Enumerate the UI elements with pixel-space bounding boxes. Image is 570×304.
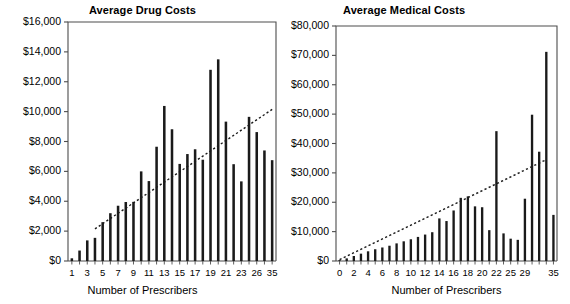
chart-panel-medical-costs: Average Medical Costs $0$10,000$20,000$3…	[285, 0, 570, 304]
y-tick-label: $8,000	[0, 136, 61, 147]
y-tick-label: $14,000	[0, 46, 61, 57]
x-tick-label: 35	[258, 267, 286, 278]
y-tick-label: $80,000	[285, 20, 329, 31]
y-tick-label: $10,000	[285, 226, 329, 237]
x-tick-label: 35	[539, 267, 567, 278]
y-tick-label: $16,000	[0, 16, 61, 27]
x-axis-title-drug-costs: Number of Prescribers	[0, 284, 285, 296]
y-tick-label: $10,000	[0, 106, 61, 117]
y-tick-label: $50,000	[285, 108, 329, 119]
y-tick-label: $2,000	[0, 225, 61, 236]
y-tick-label: $40,000	[285, 138, 329, 149]
x-axis-title-medical-costs: Number of Prescribers	[323, 284, 570, 296]
y-tick-label: $60,000	[285, 79, 329, 90]
y-tick-label: $4,000	[0, 195, 61, 206]
x-tick-label: 29	[511, 267, 539, 278]
y-tick-label: $0	[285, 255, 329, 266]
figure-container: Average Drug Costs $0$2,000$4,000$6,000$…	[0, 0, 570, 304]
y-tick-label: $70,000	[285, 49, 329, 60]
y-tick-label: $12,000	[0, 76, 61, 87]
chart-panel-drug-costs: Average Drug Costs $0$2,000$4,000$6,000$…	[0, 0, 285, 304]
y-tick-label: $30,000	[285, 167, 329, 178]
y-tick-label: $0	[0, 255, 61, 266]
y-tick-label: $20,000	[285, 196, 329, 207]
y-tick-label: $6,000	[0, 165, 61, 176]
